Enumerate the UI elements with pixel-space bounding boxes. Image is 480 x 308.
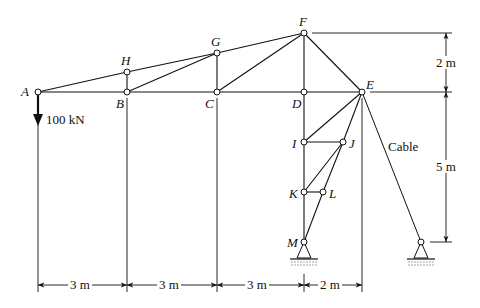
node-label-F: F (299, 15, 307, 28)
node-label-K: K (289, 187, 298, 200)
load-label: 100 kN (46, 113, 85, 126)
dim-BC: 3 m (157, 278, 181, 291)
joints (35, 30, 424, 245)
node-label-D: D (292, 97, 301, 110)
dim-CD: 3 m (245, 278, 269, 291)
dim-AB: 3 m (68, 278, 92, 291)
truss-members (38, 33, 362, 242)
node-label-J: J (349, 137, 355, 150)
dim-vertical-top: 2 m (434, 56, 458, 69)
cable (362, 92, 421, 242)
node-label-H: H (121, 54, 130, 67)
load-arrow (33, 92, 43, 126)
node-label-M: M (287, 236, 298, 249)
dim-DE: 2 m (318, 278, 342, 291)
node-label-B: B (116, 97, 124, 110)
support-cable-anchor (407, 242, 435, 267)
dim-vertical-bottom: 5 m (434, 160, 458, 173)
node-label-I: I (292, 137, 296, 150)
truss-diagram (0, 0, 480, 308)
node-label-G: G (211, 35, 220, 48)
cable-label: Cable (388, 140, 418, 153)
node-label-A: A (21, 85, 29, 98)
node-label-E: E (366, 78, 374, 91)
node-label-C: C (205, 97, 214, 110)
node-label-L: L (329, 187, 336, 200)
